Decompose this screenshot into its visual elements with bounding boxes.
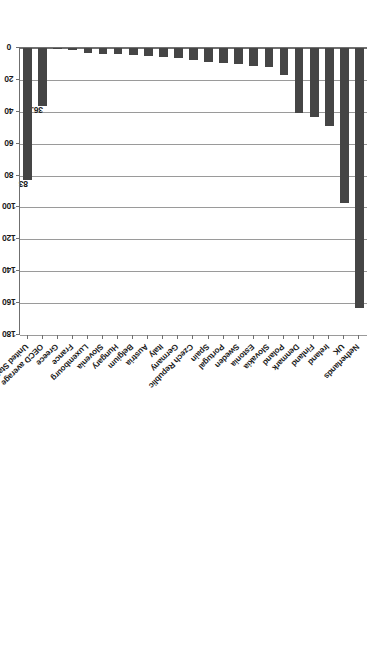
value-axis-tick-label: 80 — [4, 170, 13, 180]
value-axis-tick-label: 40 — [4, 106, 13, 116]
bar-row — [129, 48, 138, 335]
category-axis-tick — [238, 335, 239, 339]
value-axis-tick-label: 100 — [2, 201, 16, 211]
value-axis-tick-label: 20 — [4, 74, 13, 84]
bar — [280, 48, 289, 75]
bar — [340, 48, 349, 203]
category-axis-tick — [193, 335, 194, 339]
bar — [38, 48, 47, 106]
category-axis-tick — [42, 335, 43, 339]
bar — [144, 48, 153, 56]
category-axis-tick — [283, 335, 284, 339]
value-axis-tick — [16, 79, 20, 80]
bar-row — [325, 48, 334, 335]
bar — [295, 48, 304, 113]
bar — [204, 48, 213, 62]
category-axis-tick — [72, 335, 73, 339]
bar-row — [249, 48, 258, 335]
category-axis-tick — [313, 335, 314, 339]
bar-row — [280, 48, 289, 335]
bar — [325, 48, 334, 126]
bar-row — [159, 48, 168, 335]
bar — [249, 48, 258, 66]
plot-area: 36.683 — [20, 47, 367, 335]
value-axis-tick-label: 140 — [2, 265, 16, 275]
bar — [53, 48, 62, 49]
category-axis-tick — [87, 335, 88, 339]
category-axis-tick — [343, 335, 344, 339]
bar-row — [38, 48, 47, 335]
value-axis-tick — [16, 238, 20, 239]
bar-row — [310, 48, 319, 335]
value-axis-tick — [16, 302, 20, 303]
category-axis-tick — [57, 335, 58, 339]
bar — [234, 48, 243, 64]
bar-row — [174, 48, 183, 335]
bar-row — [189, 48, 198, 335]
category-axis-tick — [102, 335, 103, 339]
value-axis-tick — [16, 206, 20, 207]
value-axis-tick — [16, 143, 20, 144]
value-axis-tick — [16, 175, 20, 176]
value-axis-tick-label: 120 — [2, 233, 16, 243]
category-axis-tick — [177, 335, 178, 339]
bar — [219, 48, 228, 63]
bar — [23, 48, 32, 180]
bar-row — [84, 48, 93, 335]
bar-row — [265, 48, 274, 335]
category-axis-tick — [223, 335, 224, 339]
figure-rotator: Percent of GDP 36.683 020406080100120140… — [0, 0, 385, 655]
bar-row — [219, 48, 228, 335]
category-axis-tick — [328, 335, 329, 339]
category-axis-tick — [147, 335, 148, 339]
value-axis-tick-label: 0 — [7, 42, 12, 52]
category-axis-tick — [358, 335, 359, 339]
bar-row — [53, 48, 62, 335]
bar-row — [114, 48, 123, 335]
bar — [114, 48, 123, 54]
bar — [99, 48, 108, 54]
category-axis: NetherlandsUKIrelandFinlandDenmarkPoland… — [20, 335, 367, 383]
bar — [159, 48, 168, 57]
value-axis: 020406080100120140160180 — [0, 47, 20, 335]
value-axis-tick — [16, 111, 20, 112]
category-axis-tick — [298, 335, 299, 339]
bar-chart-figure: Percent of GDP 36.683 020406080100120140… — [0, 0, 385, 655]
bar — [174, 48, 183, 58]
bar-row — [68, 48, 77, 335]
bars-layer: 36.683 — [20, 48, 367, 335]
value-axis-tick-label: 180 — [2, 329, 16, 339]
bar-row — [234, 48, 243, 335]
bar-row — [295, 48, 304, 335]
bar — [310, 48, 319, 117]
value-axis-tick — [16, 270, 20, 271]
bar — [129, 48, 138, 55]
bar — [84, 48, 93, 53]
bar-row — [23, 48, 32, 335]
bar — [265, 48, 274, 67]
bar — [189, 48, 198, 60]
bar-row — [355, 48, 364, 335]
category-axis-tick — [132, 335, 133, 339]
value-axis-tick-label: 60 — [4, 138, 13, 148]
bar-row — [340, 48, 349, 335]
category-axis-tick — [117, 335, 118, 339]
value-axis-tick — [16, 47, 20, 48]
category-axis-tick — [27, 335, 28, 339]
category-axis-tick — [162, 335, 163, 339]
category-axis-tick — [253, 335, 254, 339]
bar-row — [144, 48, 153, 335]
bar — [68, 48, 77, 50]
category-axis-tick — [268, 335, 269, 339]
category-axis-tick — [208, 335, 209, 339]
bar — [355, 48, 364, 308]
value-axis-tick-label: 160 — [2, 297, 16, 307]
bar-row — [204, 48, 213, 335]
bar-row — [99, 48, 108, 335]
